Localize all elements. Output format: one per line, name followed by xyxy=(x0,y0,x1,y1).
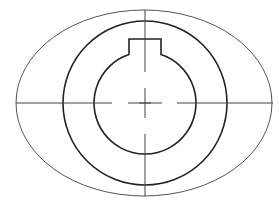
technical-drawing xyxy=(0,0,279,207)
